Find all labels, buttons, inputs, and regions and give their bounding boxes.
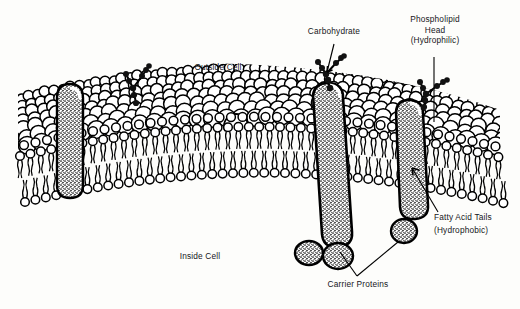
label-phospholipid-head-line1: Phospholipid [394, 14, 476, 24]
label-fatty-acid-tails-line1: Fatty Acid Tails [434, 212, 492, 222]
label-carbohydrate: Carbohydrate [284, 26, 384, 36]
membrane-diagram: Outside Cell Carbohydrate Phospholipid H… [0, 0, 520, 309]
label-fatty-acid-tails-line2: (Hydrophobic) [434, 225, 488, 235]
label-carrier-proteins: Carrier Proteins [300, 279, 416, 289]
label-inside-cell: Inside Cell [155, 251, 245, 261]
membrane-illustration [0, 0, 520, 309]
left-carrier-protein [57, 84, 83, 198]
label-phospholipid-head-line2: Head [394, 25, 476, 35]
label-phospholipid-head-line3: (Hydrophilic) [394, 35, 476, 45]
label-outside-cell: Outside Cell [168, 62, 268, 72]
